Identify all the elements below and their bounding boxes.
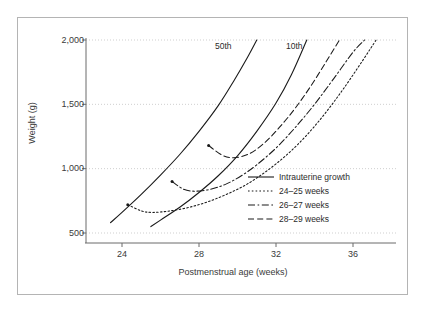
legend-swatch-icon (248, 186, 274, 196)
annotation-50th-percentile: 50th (215, 41, 232, 51)
x-tick-label-28: 28 (185, 249, 213, 259)
growth-chart-figure: 2,000 1,500 1,000 500 24 28 32 36 Weight… (0, 0, 425, 312)
legend-item-label: 26–27 weeks (279, 200, 329, 210)
curve-start-marker (126, 203, 129, 206)
chart-legend: Intrauterine growth24–25 weeks26–27 week… (248, 170, 350, 226)
legend-item-intrauterine-growth[interactable]: Intrauterine growth (248, 170, 350, 184)
legend-item-label: 24–25 weeks (279, 186, 329, 196)
x-tick-label-32: 32 (262, 249, 290, 259)
x-tick-label-36: 36 (339, 249, 367, 259)
chart-canvas (0, 0, 425, 312)
legend-swatch-icon (248, 172, 274, 182)
legend-swatch-icon (248, 214, 274, 224)
legend-item-24-25-weeks[interactable]: 24–25 weeks (248, 184, 350, 198)
legend-item-28-29-weeks[interactable]: 28–29 weeks (248, 212, 350, 226)
legend-item-26-27-weeks[interactable]: 26–27 weeks (248, 198, 350, 212)
legend-swatch-icon (248, 200, 274, 210)
y-axis-title: Weight (g) (27, 83, 37, 163)
x-tick-label-24: 24 (108, 249, 136, 259)
annotation-10th-percentile: 10th (286, 41, 303, 51)
curve-28-29-weeks (209, 40, 340, 158)
y-tick-label-2000: 2,000 (48, 35, 84, 45)
legend-item-label: Intrauterine growth (279, 172, 350, 182)
curve-start-marker (171, 180, 174, 183)
y-tick-label-500: 500 (48, 228, 84, 238)
y-tick-label-1500: 1,500 (48, 99, 84, 109)
legend-item-label: 28–29 weeks (279, 214, 329, 224)
curve-intrauterine-growth-50th-percentile (110, 40, 256, 223)
y-tick-label-1000: 1,000 (48, 163, 84, 173)
x-axis-title: Postmenstrual age (weeks) (88, 267, 378, 277)
curve-start-marker (207, 144, 210, 147)
